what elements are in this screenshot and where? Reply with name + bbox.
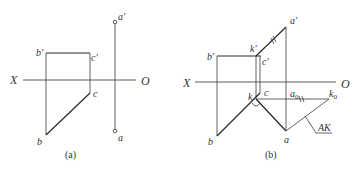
label-a-prime: a' (290, 15, 298, 26)
label-b: b (37, 136, 42, 147)
axis-o-label: O (141, 74, 150, 88)
figure-b: X O a' a b' b c' c k' (182, 15, 350, 161)
label-b: b (208, 136, 213, 147)
label-a: a (284, 134, 289, 145)
label-c-prime: c' (91, 52, 98, 63)
figure-a: X O a' a b' b c' c (a) (9, 11, 150, 161)
axis-x-label: X (182, 76, 191, 90)
label-b-prime: b' (207, 51, 215, 62)
orthographic-projection-diagram: X O a' a b' b c' c (a) X O (0, 0, 360, 175)
label-c: c (93, 88, 98, 99)
label-a: a (118, 132, 123, 143)
caption-b: (b) (265, 149, 277, 161)
label-k: k (248, 91, 253, 102)
line-b-c (46, 93, 90, 135)
label-true-length-ak: AK (317, 122, 332, 133)
axis-o-label: O (341, 77, 350, 91)
label-a0-subscript: 0 (295, 93, 299, 101)
line-b-c (217, 93, 260, 136)
label-k0: k0 (329, 88, 337, 101)
point-a-prime (113, 20, 117, 24)
axis-x-label: X (9, 73, 18, 87)
caption-a: (a) (65, 149, 76, 161)
line-k-prime-a-prime (256, 27, 286, 56)
label-a-prime: a' (118, 11, 126, 22)
label-c: c (264, 87, 269, 98)
label-b-prime: b' (36, 47, 44, 58)
label-c-prime: c' (262, 56, 269, 67)
point-a (113, 129, 117, 133)
right-angle-mark (252, 103, 260, 106)
line-k-a (256, 99, 286, 131)
label-k-prime: k' (250, 43, 257, 54)
label-k0-subscript: 0 (333, 93, 337, 101)
